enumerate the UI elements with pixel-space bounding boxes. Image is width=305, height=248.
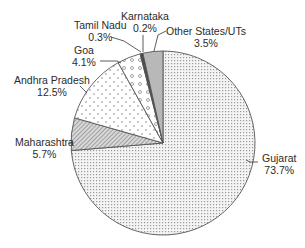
label-gujarat: Gujarat 73.7% (262, 152, 296, 176)
label-karnataka-pct: 0.2% (121, 22, 169, 34)
pie-slices (71, 51, 255, 235)
label-karnataka-name: Karnataka (121, 10, 169, 22)
label-tamil: Tamil Nadu 0.3% (74, 19, 127, 43)
label-other: Other States/UTs 3.5% (166, 25, 246, 49)
label-other-pct: 3.5% (166, 37, 246, 49)
label-maharashtra-pct: 5.7% (15, 148, 74, 160)
label-tamil-name: Tamil Nadu (74, 19, 127, 31)
label-andhra-name: Andhra Pradesh (14, 74, 90, 86)
label-andhra-pct: 12.5% (14, 86, 90, 98)
label-other-name: Other States/UTs (166, 25, 246, 37)
label-goa-name: Goa (72, 44, 96, 56)
label-tamil-pct: 0.3% (74, 31, 127, 43)
label-maharashtra-name: Maharashtra (15, 136, 74, 148)
label-gujarat-pct: 73.7% (262, 164, 296, 176)
label-goa: Goa 4.1% (72, 44, 96, 68)
leader-other (154, 31, 166, 51)
label-gujarat-name: Gujarat (262, 152, 296, 164)
label-karnataka: Karnataka 0.2% (121, 10, 169, 34)
label-goa-pct: 4.1% (72, 56, 96, 68)
label-andhra: Andhra Pradesh 12.5% (14, 74, 90, 98)
label-maharashtra: Maharashtra 5.7% (15, 136, 74, 160)
pie-chart (0, 0, 305, 248)
